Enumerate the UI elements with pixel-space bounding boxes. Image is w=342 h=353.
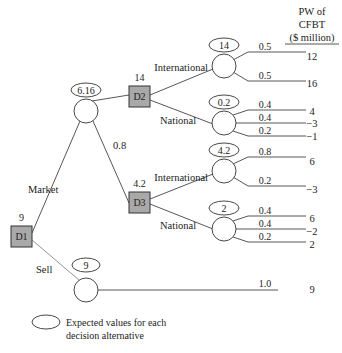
d3-label: D3: [133, 197, 145, 208]
d1-label: D1: [15, 231, 27, 242]
legend-ellipse-icon: [32, 315, 60, 329]
prob-label: 0.4: [259, 218, 272, 229]
prob-label: 1.0: [259, 278, 272, 289]
d3-national-ev: 2: [222, 203, 227, 214]
d2-international-chance-node: [212, 54, 236, 78]
legend-line2: decision alternative: [66, 330, 145, 341]
prob-label: 0.2: [259, 175, 272, 186]
pw-value: −3: [306, 184, 317, 195]
d3-value: 4.2: [133, 178, 146, 189]
pw-value: 16: [307, 78, 318, 89]
market-chance-node: [74, 99, 98, 123]
d2-label: D2: [133, 91, 145, 102]
header-line2: CFBT: [299, 19, 326, 30]
prob-label: 0.4: [259, 99, 272, 110]
pw-value: 2: [309, 239, 314, 250]
sell-chance-node: [74, 278, 98, 302]
d3-national-label: National: [160, 220, 196, 231]
prob-label: 0.2: [259, 125, 272, 136]
d3-national-chance-node: [212, 217, 236, 241]
market-ev-value: 6.16: [77, 85, 95, 96]
low-branch-line: [93, 121, 129, 203]
pw-value: 4: [309, 106, 315, 117]
outcome-line: [233, 52, 306, 60]
prob-label: 0.5: [259, 41, 272, 52]
d2-international-label: International: [154, 62, 208, 73]
pw-value: 6: [309, 156, 314, 167]
high-branch-line: [92, 95, 129, 101]
d2-national-chance-node: [212, 111, 236, 135]
d3-international-label: International: [154, 172, 208, 183]
legend: Expected values for each decision altern…: [32, 315, 166, 341]
prob-label: 0.8: [259, 146, 272, 157]
sell-label: Sell: [36, 264, 52, 275]
pw-value: 9: [309, 284, 314, 295]
pw-value: 12: [307, 51, 318, 62]
prob-label: 0.2: [259, 231, 272, 242]
outcome-line: [233, 157, 306, 164]
header-line3: ($ million): [289, 32, 335, 44]
d3-international-ev: 4.2: [218, 145, 231, 156]
market-branch-line: [32, 121, 80, 233]
decision-tree: PW of CFBT ($ million) 6.16 9 D1 9 D2 14…: [0, 0, 342, 353]
pw-value: −3: [306, 118, 317, 129]
d2-national-label: National: [160, 115, 196, 126]
pw-value: −1: [306, 131, 317, 142]
low-prob: 0.8: [113, 140, 126, 151]
prob-label: 0.4: [259, 205, 272, 216]
d2-international-ev: 14: [219, 40, 229, 51]
prob-label: 0.5: [259, 70, 272, 81]
d2-national-ev: 0.2: [218, 97, 231, 108]
pw-value: 6: [309, 213, 314, 224]
d1-value: 9: [19, 212, 24, 223]
d3-international-chance-node: [212, 159, 236, 183]
pw-value: −2: [306, 226, 317, 237]
market-label: Market: [28, 184, 58, 195]
legend-line1: Expected values for each: [66, 317, 166, 328]
header-line1: PW of: [299, 6, 326, 17]
sell-ev-value: 9: [84, 260, 89, 271]
prob-label: 0.4: [259, 112, 272, 123]
pw-header: PW of CFBT ($ million): [285, 6, 339, 44]
d2-value: 14: [135, 72, 145, 83]
